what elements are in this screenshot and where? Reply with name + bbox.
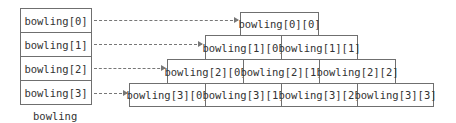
row-2-cell-1: bowling[2][1] [243,59,320,84]
pointer-arrow-2 [94,68,165,69]
row-1-cell-1: bowling[1][1] [281,35,358,60]
left-array-caption: bowling [33,110,77,122]
row-2-cell-2: bowling[2][2] [319,59,396,84]
row-3-cell-1: bowling[3][1] [205,83,282,107]
row-3-cell-0: bowling[3][0] [129,83,206,107]
pointer-arrow-0 [94,20,238,21]
row-2-cell-0: bowling[2][0] [167,59,244,84]
left-array-cell-0: bowling[0] [20,8,92,33]
pointer-arrow-3 [94,93,127,94]
row-0-cell-0: bowling[0][0] [240,12,319,36]
pointer-arrow-1 [94,44,202,45]
left-array-cell-2: bowling[2] [20,56,92,81]
row-3-cell-3: bowling[3][3] [357,83,434,107]
row-3-cell-2: bowling[3][2] [281,83,358,107]
left-array-cell-3: bowling[3] [20,80,92,105]
row-1-cell-0: bowling[1][0] [205,35,282,60]
left-array-cell-1: bowling[1] [20,32,92,57]
